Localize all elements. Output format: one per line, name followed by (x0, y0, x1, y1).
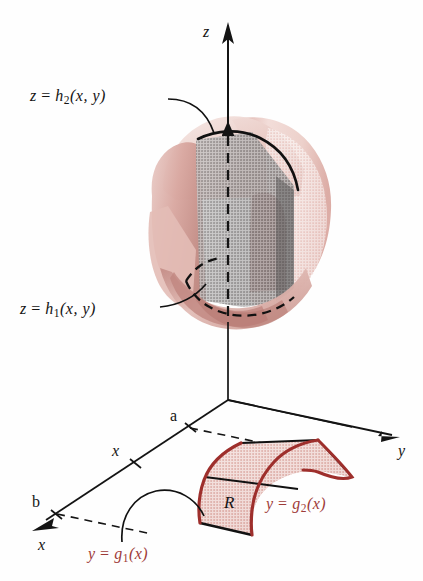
lower-surface-label: z = h1(x, y) (20, 301, 96, 320)
solid-body (148, 116, 331, 329)
right-boundary-label-lhs: y (266, 495, 274, 512)
guide-line-b (57, 514, 152, 534)
slab-right-face (276, 176, 294, 301)
leader-left-boundary (122, 490, 204, 542)
upper-surface-label-args: (x, y) (70, 87, 106, 104)
math-figure-triple-integral: z y x a x b R z = h2(x, y) z = h1(x, y) … (0, 0, 423, 581)
upper-surface-label-lhs: z (30, 87, 37, 104)
right-boundary-label-fn: g (292, 495, 301, 512)
base-plane-far-edge (228, 400, 352, 427)
tick-label-a: a (170, 408, 177, 424)
z-axis-label: z (203, 24, 209, 40)
left-boundary-label-args: (x) (129, 545, 148, 562)
left-boundary-label: y = g1(x) (88, 546, 148, 565)
region-R (197, 440, 356, 535)
tick-label-x: x (112, 443, 119, 459)
left-boundary-label-fn: g (114, 545, 123, 562)
upper-surface-label-eq: = (41, 87, 51, 104)
lower-surface-label-eq: = (31, 300, 41, 317)
left-boundary-label-eq: = (100, 545, 110, 562)
left-boundary-label-lhs: y (88, 545, 96, 562)
y-axis-arrowhead (378, 431, 400, 442)
lower-surface-label-lhs: z (20, 300, 27, 317)
right-boundary-label: y = g2(x) (266, 496, 326, 515)
lower-surface-label-args: (x, y) (60, 300, 96, 317)
tick-label-b: b (32, 494, 40, 510)
x-axis-arrowhead (32, 518, 59, 531)
right-boundary-label-args: (x) (307, 495, 326, 512)
upper-surface-label: z = h2(x, y) (30, 88, 106, 107)
region-label-R: R (224, 494, 234, 511)
lower-surface-label-fn: h (45, 300, 54, 317)
upper-surface-label-fn: h (55, 87, 64, 104)
y-axis-label: y (398, 443, 405, 459)
right-boundary-label-eq: = (278, 495, 288, 512)
x-axis-label: x (38, 537, 45, 553)
